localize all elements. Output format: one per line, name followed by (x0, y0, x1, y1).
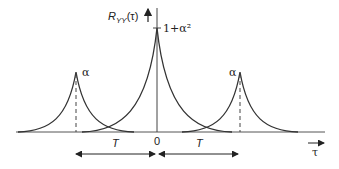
autocorrelation-diagram: RYY(τ) 1+α² α α 0 T T τ (0, 0, 339, 169)
y-axis-label: RYY(τ) (108, 10, 138, 25)
left-peak-label: α (82, 66, 90, 79)
origin-label: 0 (154, 135, 160, 147)
right-peak-label: α (229, 66, 237, 79)
center-peak-label: 1+α² (163, 22, 191, 35)
left-interval-label: T (112, 137, 120, 149)
right-interval-label: T (196, 137, 204, 149)
x-axis-label: τ (312, 146, 318, 159)
